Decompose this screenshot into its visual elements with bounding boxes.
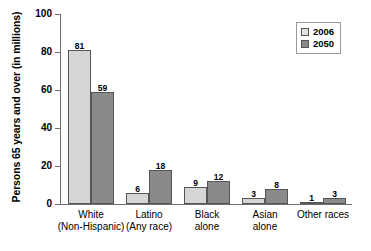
y-axis-line [60, 14, 61, 205]
bar-other-2006: 1 [300, 202, 323, 204]
bar-white-2050: 59 [91, 92, 114, 204]
y-tick-label-80: 80 [41, 46, 52, 57]
x-label-black-line1: Black [195, 209, 219, 220]
legend-swatch-2006-icon [301, 28, 309, 36]
bar-black-2050: 12 [207, 181, 230, 204]
bar-value-other-2050: 3 [332, 190, 337, 199]
bar-value-white-2050: 59 [98, 84, 107, 93]
y-tick-label-0: 0 [46, 198, 52, 209]
legend-label-2006: 2006 [313, 26, 334, 38]
bar-value-white-2006: 81 [75, 42, 84, 51]
bar-value-latino-2006: 6 [135, 185, 140, 194]
bar-asian-2006: 3 [242, 198, 265, 204]
y-tick-label-100: 100 [35, 8, 52, 19]
bar-chart: Persons 65 years and over (in millions) … [0, 0, 371, 251]
bar-value-asian-2050: 8 [274, 181, 279, 190]
x-label-asian-line1: Asian [252, 209, 277, 220]
legend-item-2050: 2050 [301, 38, 334, 50]
bar-asian-2050: 8 [265, 189, 288, 204]
y-tick-80: 80 [55, 52, 60, 53]
y-tick-20: 20 [55, 166, 60, 167]
y-tick-40: 40 [55, 128, 60, 129]
legend-swatch-2050-icon [301, 40, 309, 48]
bar-value-black-2006: 9 [193, 179, 198, 188]
y-tick-label-60: 60 [41, 84, 52, 95]
bar-latino-2006: 6 [126, 193, 149, 204]
legend-item-2006: 2006 [301, 26, 334, 38]
bar-value-asian-2006: 3 [251, 190, 256, 199]
bar-other-2050: 3 [323, 198, 346, 204]
x-label-latino-line1: Latino [135, 209, 162, 220]
x-axis-line [60, 204, 352, 205]
y-axis-title: Persons 65 years and over (in millions) [10, 7, 22, 207]
legend-label-2050: 2050 [313, 38, 334, 50]
y-tick-label-20: 20 [41, 160, 52, 171]
bar-value-black-2050: 12 [214, 173, 223, 182]
bar-value-other-2006: 1 [309, 194, 314, 203]
y-tick-60: 60 [55, 90, 60, 91]
x-label-other: Other races [281, 209, 365, 221]
x-label-asian-line2: alone [223, 221, 307, 233]
x-label-white-line1: White [78, 209, 104, 220]
y-tick-0: 0 [55, 204, 60, 205]
x-label-other-line1: Other races [297, 209, 349, 220]
y-tick-100: 100 [55, 14, 60, 15]
bar-value-latino-2050: 18 [156, 162, 165, 171]
bar-white-2006: 81 [68, 50, 91, 204]
y-tick-label-40: 40 [41, 122, 52, 133]
bar-black-2006: 9 [184, 187, 207, 204]
legend: 2006 2050 [296, 22, 341, 54]
bar-latino-2050: 18 [149, 170, 172, 204]
